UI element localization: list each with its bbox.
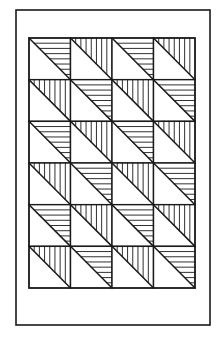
half-square-triangle-block — [112, 38, 154, 80]
half-square-triangle-block — [29, 205, 71, 247]
half-square-triangle-block — [112, 80, 154, 122]
half-square-triangle-block — [29, 80, 71, 122]
half-square-triangle-block — [29, 121, 71, 163]
half-square-triangle-block — [112, 163, 154, 205]
half-square-triangle-block — [154, 246, 196, 288]
half-square-triangle-block — [71, 38, 113, 80]
half-square-triangle-block — [154, 80, 196, 122]
half-square-triangle-block — [29, 163, 71, 205]
half-square-triangle-block — [112, 121, 154, 163]
half-square-triangle-block — [29, 38, 71, 80]
half-square-triangle-block — [154, 121, 196, 163]
half-square-triangle-block — [71, 205, 113, 247]
quilt-diagram — [0, 0, 221, 343]
half-square-triangle-block — [71, 80, 113, 122]
half-square-triangle-block — [112, 246, 154, 288]
half-square-triangle-block — [154, 163, 196, 205]
half-square-triangle-block — [71, 121, 113, 163]
half-square-triangle-block — [29, 246, 71, 288]
quilt-svg-canvas — [0, 0, 221, 343]
pieced-block-field — [29, 38, 195, 288]
half-square-triangle-block — [154, 205, 196, 247]
half-square-triangle-block — [71, 163, 113, 205]
half-square-triangle-block — [71, 246, 113, 288]
half-square-triangle-block — [112, 205, 154, 247]
half-square-triangle-block — [154, 38, 196, 80]
